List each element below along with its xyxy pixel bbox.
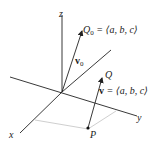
v0-label: v0 xyxy=(75,56,84,68)
projection-lines xyxy=(35,111,116,129)
y-axis xyxy=(10,77,137,116)
y-axis-label: y xyxy=(137,113,141,123)
q-label: Q xyxy=(105,70,112,80)
diagram-canvas xyxy=(0,0,157,152)
v0-subscript: 0 xyxy=(80,60,84,68)
q0-equation: = ⟨a, b, c⟩ xyxy=(96,24,138,35)
p-label: P xyxy=(90,130,96,140)
x-axis xyxy=(20,92,62,133)
z-axis-label: z xyxy=(59,9,63,19)
v-label: v = ⟨a, b, c⟩ xyxy=(99,86,148,96)
x-axis-label: x xyxy=(9,130,13,140)
q0-subscript: 0 xyxy=(90,29,94,37)
q0-label: Q0 = ⟨a, b, c⟩ xyxy=(83,25,138,37)
v-letter: v xyxy=(99,85,104,96)
v-equation: = ⟨a, b, c⟩ xyxy=(107,85,149,96)
